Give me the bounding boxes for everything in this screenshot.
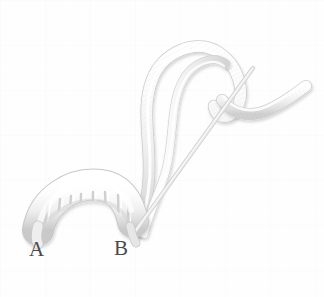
stitch-diagram: A B [0, 0, 324, 297]
thread-end-b [130, 226, 136, 243]
point-label-b: B [114, 238, 128, 259]
stitch-illustration [0, 0, 324, 297]
background-grid [0, 0, 324, 297]
point-label-a: A [29, 239, 44, 260]
